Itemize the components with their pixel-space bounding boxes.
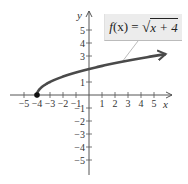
x-tick-label: −2 [58,98,69,109]
start-point-marker [34,92,40,98]
x-tick-label: −5 [19,98,30,109]
x-tick-label: 3 [126,98,131,109]
x-tick-label: −4 [32,98,43,109]
equals-sign: = [128,19,142,35]
x-axis-label: x [162,98,168,110]
y-tick-label: 5 [80,25,85,36]
function-label-box: f(x) = √x + 4 [104,14,182,41]
x-tick-label: 2 [113,98,118,109]
y-tick-label: 1 [80,77,85,88]
sqrt-symbol: √ [142,19,150,36]
x-tick-label: 5 [152,98,157,109]
y-axis-label: y [76,9,82,21]
y-tick-label: −4 [74,142,85,153]
y-tick-label: 4 [80,38,85,49]
function-arg: (x) [113,19,128,35]
radicand: x + 4 [150,18,178,36]
sqrt-curve [37,54,166,95]
y-tick-label: −1 [74,103,85,114]
x-tick-label: 4 [139,98,144,109]
y-tick-label: 3 [80,51,85,62]
x-tick-label: 1 [100,98,105,109]
y-tick-label: −3 [74,129,85,140]
x-tick-label: −3 [45,98,56,109]
y-tick-label: −5 [74,155,85,166]
y-tick-label: −2 [74,116,85,127]
